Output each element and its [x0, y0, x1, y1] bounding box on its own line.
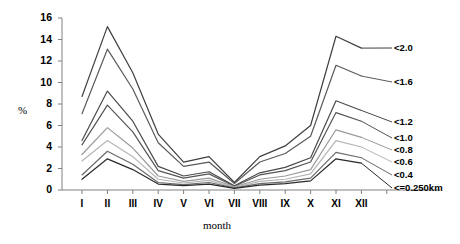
- y-tick-label: 6: [28, 119, 52, 131]
- y-tick-label: 10: [28, 76, 52, 88]
- legend-item-label: <1.6: [394, 76, 413, 87]
- y-tick-label: 14: [28, 33, 52, 45]
- legend-item-label: <2.0: [394, 42, 413, 53]
- legend-item-label: <0.8: [394, 144, 413, 155]
- line-chart: % month 0246810121416 IIIIIIIVVVIVIIVIII…: [0, 0, 460, 244]
- legend-item-label: <0.4: [394, 169, 413, 180]
- x-tick-label: XII: [346, 198, 376, 209]
- y-tick-label: 4: [28, 140, 52, 152]
- legend-item-label: <0.6: [394, 156, 413, 167]
- legend-item-label: <1.2: [394, 116, 413, 127]
- y-tick-label: 2: [28, 162, 52, 174]
- legend-item-label: <1.0: [394, 132, 413, 143]
- y-tick-label: 16: [28, 11, 52, 23]
- legend-item-label: <=0.250km: [394, 182, 443, 193]
- y-tick-label: 12: [28, 54, 52, 66]
- y-tick-label: 8: [28, 97, 52, 109]
- y-tick-label: 0: [28, 183, 52, 195]
